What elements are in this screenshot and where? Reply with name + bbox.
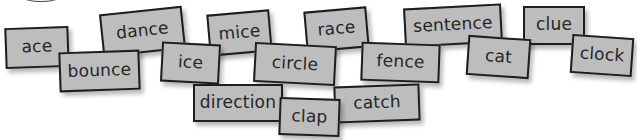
word-label: clock (579, 44, 625, 66)
word-label: ace (21, 37, 52, 57)
decorative-oval-arc (18, 0, 64, 2)
word-label: sentence (413, 14, 493, 37)
word-label: bounce (67, 60, 131, 81)
word-label: clue (536, 16, 572, 35)
word-card-circle[interactable]: circle (253, 42, 337, 86)
word-label: circle (271, 53, 318, 74)
word-label: cat (484, 47, 512, 68)
word-card-bounce[interactable]: bounce (58, 50, 140, 93)
word-card-clap[interactable]: clap (278, 97, 340, 137)
word-card-cat[interactable]: cat (466, 35, 532, 79)
word-label: dance (115, 19, 169, 43)
word-label: direction (200, 94, 276, 113)
word-card-fence[interactable]: fence (360, 42, 440, 84)
word-card-ice[interactable]: ice (160, 41, 221, 84)
word-label: race (317, 18, 357, 40)
word-card-catch[interactable]: catch (333, 84, 420, 124)
word-label: ice (177, 53, 203, 73)
word-label: catch (353, 93, 401, 114)
word-label: fence (376, 52, 425, 73)
word-label: clap (291, 107, 328, 127)
word-card-clock[interactable]: clock (570, 34, 635, 77)
word-card-direction[interactable]: direction (193, 84, 283, 122)
